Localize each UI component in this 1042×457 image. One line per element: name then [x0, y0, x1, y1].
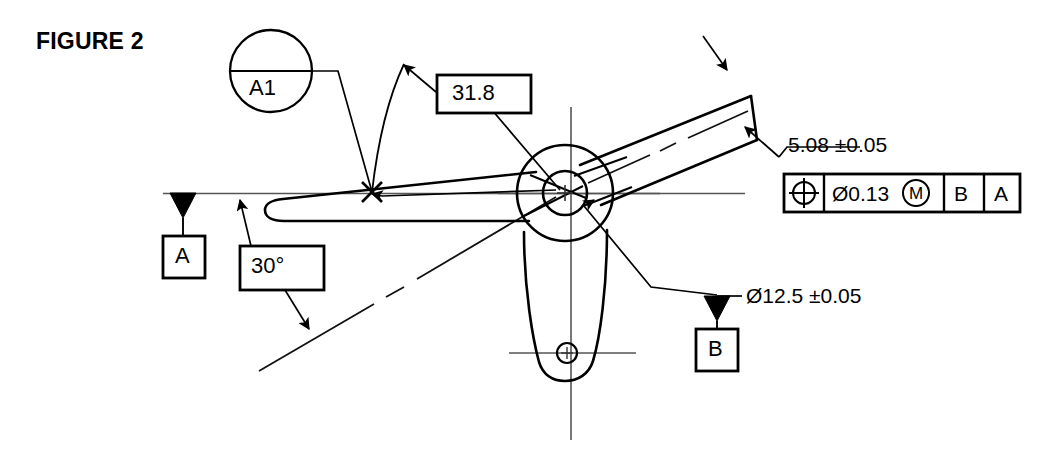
- basic-dimension-label-30: 30°: [251, 253, 284, 279]
- datum-a-feature-symbol: [170, 193, 196, 237]
- upper-arm-axis-centerline: [588, 111, 748, 183]
- feature-control-frame-shape: [784, 174, 1020, 212]
- engineering-drawing-canvas: [0, 0, 1042, 457]
- fcf-mmc-modifier-label: M: [909, 184, 923, 204]
- fcf-secondary-datum-label: A: [994, 182, 1008, 206]
- bore-dimension-label: Ø12.5 ±0.05: [746, 284, 861, 308]
- datum-b-triangle: [704, 296, 730, 330]
- datum-b-label: B: [708, 336, 723, 362]
- fcf-tolerance-label: Ø0.13: [832, 182, 889, 206]
- balloon-label: A1: [249, 75, 276, 101]
- part-outline: [265, 96, 757, 381]
- width-dimension-label: 5.08 ±0.05: [788, 133, 887, 157]
- lower-lobe-outline: [524, 230, 607, 381]
- fcf-primary-datum-label: B: [954, 182, 968, 206]
- basic-dimension-label-31-8: 31.8: [452, 80, 495, 106]
- datum-a-label: A: [175, 243, 190, 269]
- balloon-leader: [312, 71, 372, 192]
- basic-dimension-arc: [372, 64, 404, 192]
- upper-right-arm-top-edge: [580, 96, 751, 165]
- upper-right-arm-bottom-edge: [601, 140, 757, 205]
- drawing-page: FIGURE 2: [0, 0, 1042, 457]
- left-arm-outline: [265, 172, 536, 221]
